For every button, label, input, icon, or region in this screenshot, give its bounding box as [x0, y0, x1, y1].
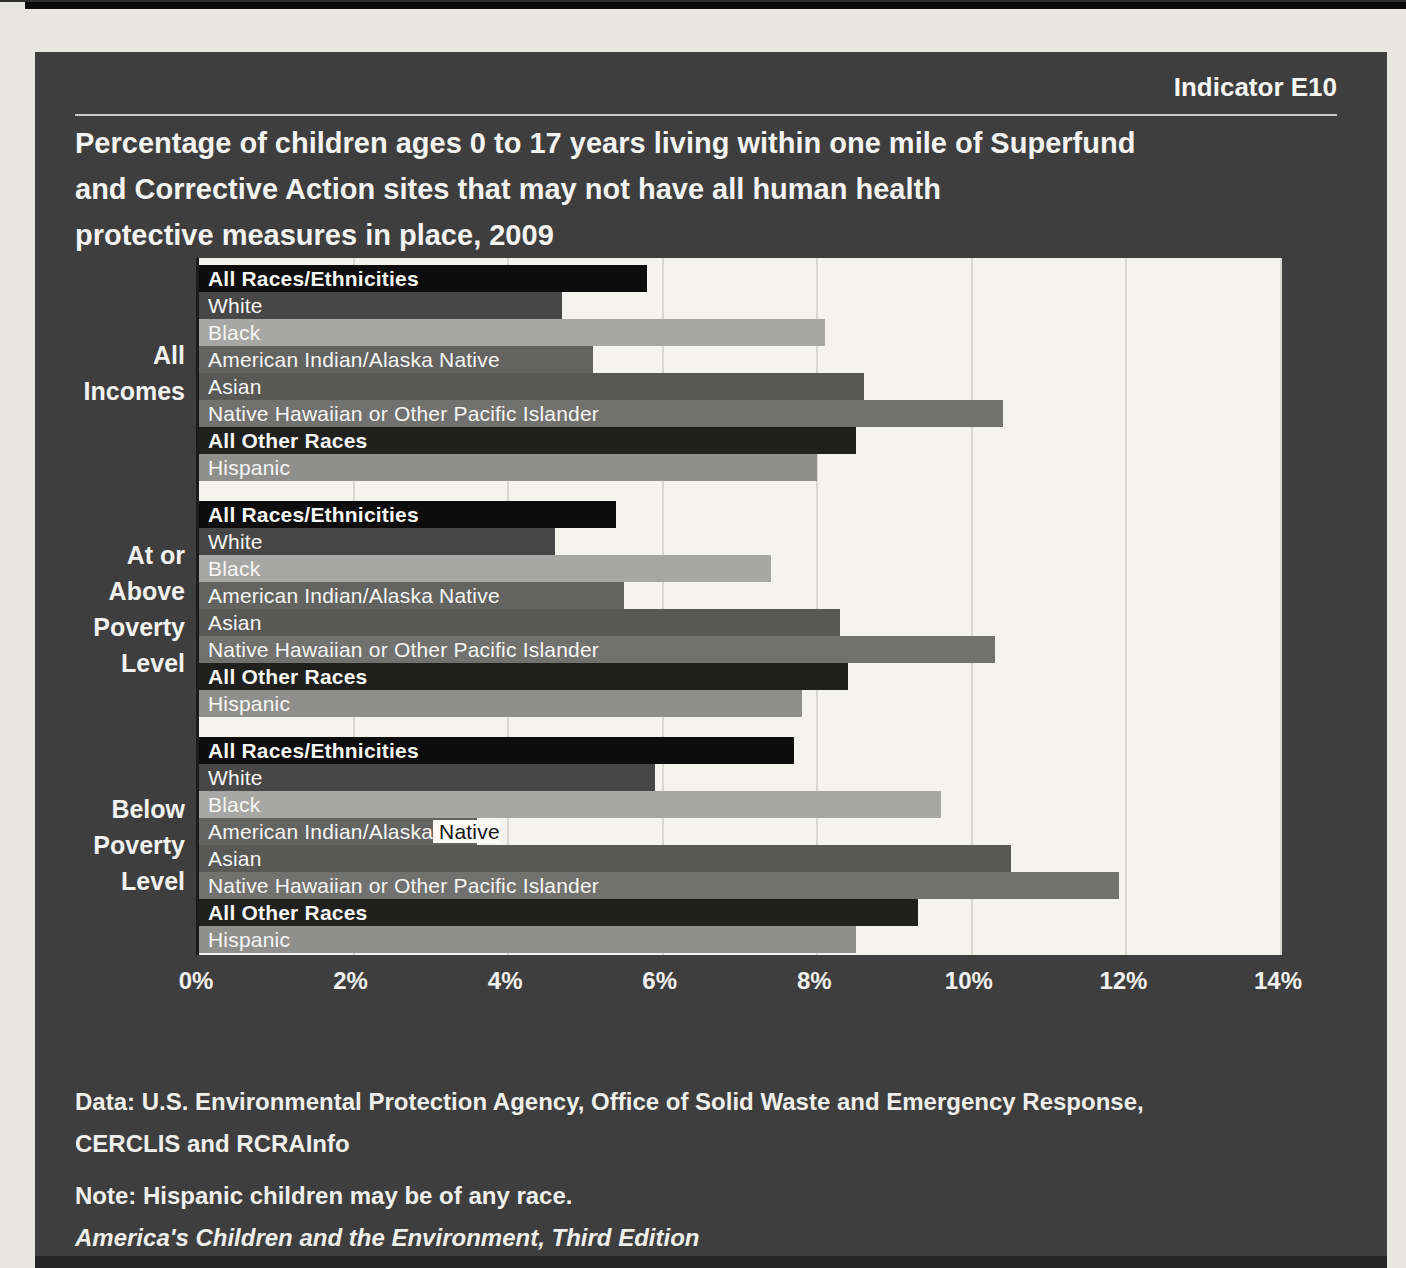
bar-label: White	[208, 528, 263, 555]
bar-row: Black	[199, 319, 1281, 346]
group-label-line: Above	[35, 573, 185, 609]
note-text: Note: Hispanic children may be of any ra…	[75, 1182, 572, 1210]
group-label-line: Level	[35, 645, 185, 681]
bar-group3-series2	[199, 764, 655, 791]
bar-label: Native Hawaiian or Other Pacific Islande…	[208, 400, 599, 427]
bar-label: Black	[208, 791, 260, 818]
plot-area: All Races/EthnicitiesWhiteBlackAmerican …	[196, 258, 1281, 955]
publication-title: America's Children and the Environment, …	[75, 1224, 699, 1252]
bar-row: Black	[199, 791, 1281, 818]
x-tick-4pct: 4%	[488, 967, 523, 995]
bar-label: American Indian/Alaska Native	[208, 818, 500, 845]
data-source-line-1: Data: U.S. Environmental Protection Agen…	[75, 1088, 1144, 1116]
bar-row: White	[199, 764, 1281, 791]
bar-group-1: All Races/EthnicitiesWhiteBlackAmerican …	[199, 265, 1281, 481]
bar-row: Hispanic	[199, 454, 1281, 481]
bar-label: Black	[208, 555, 260, 582]
group-label-line: Incomes	[35, 373, 185, 409]
data-source-line-2: CERCLIS and RCRAInfo	[75, 1130, 350, 1158]
bar-row: Black	[199, 555, 1281, 582]
bar-row: American Indian/Alaska Native	[199, 582, 1281, 609]
bar-label: All Races/Ethnicities	[208, 501, 419, 528]
bar-group1-series8	[199, 454, 817, 481]
bar-group3-series8	[199, 926, 856, 953]
group-label-line: At or	[35, 537, 185, 573]
group-label-line: Below	[35, 791, 185, 827]
figure-panel: Indicator E10 Percentage of children age…	[35, 52, 1387, 1268]
scanned-report-page: Indicator E10 Percentage of children age…	[0, 0, 1406, 1268]
page-top-rule	[25, 2, 1406, 9]
bar-label: Asian	[208, 609, 262, 636]
y-axis-group-labels: AllIncomesAt orAbovePovertyLevelBelowPov…	[35, 52, 185, 1268]
panel-bottom-strip	[35, 1256, 1387, 1268]
x-tick-2pct: 2%	[333, 967, 368, 995]
bar-group1-series5	[199, 373, 864, 400]
bar-row: Asian	[199, 373, 1281, 400]
bar-group3-series5	[199, 845, 1011, 872]
bar-label: Asian	[208, 373, 262, 400]
group-label-line: Level	[35, 863, 185, 899]
bar-row: Hispanic	[199, 926, 1281, 953]
chart-title-line-1: Percentage of children ages 0 to 17 year…	[75, 120, 1355, 166]
bar-label: American Indian/Alaska Native	[208, 346, 500, 373]
group-label-1: AllIncomes	[35, 337, 185, 409]
bar-label: All Other Races	[208, 899, 367, 926]
bar-row: White	[199, 528, 1281, 555]
bar-row: Asian	[199, 845, 1281, 872]
bar-row: All Other Races	[199, 899, 1281, 926]
bar-label: Native Hawaiian or Other Pacific Islande…	[208, 872, 599, 899]
chart-title: Percentage of children ages 0 to 17 year…	[75, 120, 1355, 258]
x-tick-10pct: 10%	[945, 967, 993, 995]
bar-label: All Races/Ethnicities	[208, 737, 419, 764]
x-tick-14pct: 14%	[1254, 967, 1302, 995]
bar-row: All Races/Ethnicities	[199, 265, 1281, 292]
chart-title-line-2: and Corrective Action sites that may not…	[75, 166, 1355, 212]
bar-label: Hispanic	[208, 926, 290, 953]
bar-row: All Other Races	[199, 427, 1281, 454]
bar-label: All Other Races	[208, 427, 367, 454]
bar-row: Native Hawaiian or Other Pacific Islande…	[199, 872, 1281, 899]
bar-group1-series3	[199, 319, 825, 346]
bar-label-inside: American Indian/Alaska	[208, 820, 433, 843]
bar-row: All Other Races	[199, 663, 1281, 690]
group-label-line: All	[35, 337, 185, 373]
bar-group-2: All Races/EthnicitiesWhiteBlackAmerican …	[199, 501, 1281, 717]
indicator-label: Indicator E10	[1174, 72, 1337, 103]
bar-label: Asian	[208, 845, 262, 872]
bar-row: White	[199, 292, 1281, 319]
bar-row: Native Hawaiian or Other Pacific Islande…	[199, 636, 1281, 663]
bar-label-overflow: Native	[433, 820, 500, 843]
bar-row: American Indian/Alaska Native	[199, 818, 1281, 845]
bar-label: Black	[208, 319, 260, 346]
group-label-line: Poverty	[35, 827, 185, 863]
bar-row: All Races/Ethnicities	[199, 737, 1281, 764]
group-label-2: At orAbovePovertyLevel	[35, 537, 185, 681]
group-label-line: Poverty	[35, 609, 185, 645]
bar-label: White	[208, 292, 263, 319]
bar-row: Hispanic	[199, 690, 1281, 717]
indicator-underline	[75, 114, 1337, 116]
bar-label: All Races/Ethnicities	[208, 265, 419, 292]
bar-group2-series5	[199, 609, 840, 636]
bar-label: White	[208, 764, 263, 791]
bar-group3-series3	[199, 791, 941, 818]
bar-label: All Other Races	[208, 663, 367, 690]
bar-label: Native Hawaiian or Other Pacific Islande…	[208, 636, 599, 663]
x-tick-8pct: 8%	[797, 967, 832, 995]
x-tick-6pct: 6%	[642, 967, 677, 995]
bar-row: American Indian/Alaska Native	[199, 346, 1281, 373]
bar-group-3: All Races/EthnicitiesWhiteBlackAmerican …	[199, 737, 1281, 953]
chart-title-line-3: protective measures in place, 2009	[75, 212, 1355, 258]
x-axis: 0%2%4%6%8%10%12%14%	[196, 967, 1278, 1001]
bar-row: All Races/Ethnicities	[199, 501, 1281, 528]
bar-label: Hispanic	[208, 690, 290, 717]
bar-row: Asian	[199, 609, 1281, 636]
bar-label: American Indian/Alaska Native	[208, 582, 500, 609]
x-tick-12pct: 12%	[1099, 967, 1147, 995]
bar-group2-series3	[199, 555, 771, 582]
bar-row: Native Hawaiian or Other Pacific Islande…	[199, 400, 1281, 427]
group-label-3: BelowPovertyLevel	[35, 791, 185, 899]
bar-label: Hispanic	[208, 454, 290, 481]
